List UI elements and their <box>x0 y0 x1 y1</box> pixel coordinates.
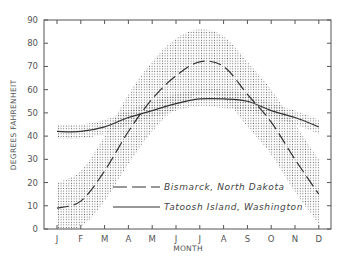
y-tick-label: 90 <box>27 15 38 25</box>
legend-label-bismarck: Bismarck, North Dakota <box>164 182 285 192</box>
x-tick-label: N <box>292 234 298 244</box>
x-tick-label: M <box>101 234 108 244</box>
y-tick-label: 30 <box>27 154 38 164</box>
y-tick-label: 50 <box>27 108 38 118</box>
y-tick-label: 60 <box>27 85 38 95</box>
y-tick-label: 80 <box>27 38 38 48</box>
y-tick-label: 70 <box>27 61 38 71</box>
x-tick-label: J <box>174 234 178 244</box>
y-tick-label: 0 <box>33 224 38 234</box>
y-tick-label: 10 <box>27 201 38 211</box>
x-tick-label: A <box>125 234 131 244</box>
x-tick-label: D <box>316 234 323 244</box>
x-tick-label: F <box>78 234 83 244</box>
y-tick-label: 40 <box>27 131 38 141</box>
x-tick-label: A <box>221 234 227 244</box>
y-tick-label: 20 <box>27 178 38 188</box>
x-axis-title: MONTH <box>173 244 203 253</box>
x-tick-label: O <box>268 234 275 244</box>
y-axis-title: DEGREES FAHRENHEIT <box>9 80 18 171</box>
legend: Bismarck, North Dakota Tatoosh Island, W… <box>113 182 303 212</box>
temperature-chart: 0102030405060708090 JFMAMJJASOND MONTH D… <box>0 0 349 259</box>
x-tick-label: J <box>198 234 202 244</box>
x-tick-label: J <box>55 234 59 244</box>
x-tick-label: M <box>149 234 156 244</box>
x-tick-label: S <box>245 234 250 244</box>
legend-label-tatoosh: Tatoosh Island, Washington <box>164 202 303 212</box>
